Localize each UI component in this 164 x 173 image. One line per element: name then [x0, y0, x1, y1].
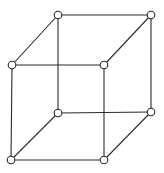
vertex-back-bottom-left	[54, 109, 62, 117]
edge-back-bottom-left-to-front-bottom-left	[11, 113, 58, 160]
edge-back-top-left-to-front-top-left	[12, 15, 58, 65]
vertex-back-top-right	[147, 11, 155, 19]
edges-group	[11, 15, 151, 160]
vertex-front-bottom-left	[7, 156, 15, 164]
vertex-front-top-right	[100, 61, 108, 69]
edge-back-top-right-to-front-top-right	[104, 15, 151, 65]
vertex-back-top-left	[54, 11, 62, 19]
cube-graph-diagram	[0, 0, 164, 173]
edge-front-top-left-to-front-bottom-left	[11, 65, 12, 160]
vertex-front-top-left	[8, 61, 16, 69]
vertex-back-bottom-right	[147, 108, 155, 116]
vertex-front-bottom-right	[100, 156, 108, 164]
edge-back-bottom-right-to-front-bottom-right	[104, 112, 151, 160]
